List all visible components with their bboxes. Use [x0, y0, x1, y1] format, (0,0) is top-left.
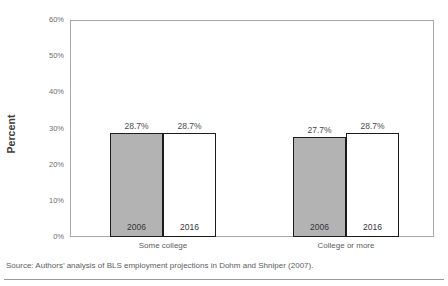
source-note: Source: Authors’ analysis of BLS employm… — [6, 261, 313, 270]
figure-container: Percent 0%10%20%30%40%50%60% 28.7%200628… — [0, 0, 448, 286]
bar-value-label: 28.7% — [124, 121, 148, 131]
bar-value-label: 28.7% — [360, 121, 384, 131]
bar-series-label: 2006 — [294, 222, 345, 232]
bar[interactable]: 28.7%2016 — [346, 133, 399, 237]
y-axis-tick-label: 60% — [24, 16, 64, 24]
bar[interactable]: 28.7%2006 — [110, 133, 163, 237]
bar-series-label: 2016 — [347, 222, 398, 232]
y-axis-tick-label: 0% — [24, 233, 64, 241]
bar[interactable]: 28.7%2016 — [163, 133, 216, 237]
bar-series-label: 2016 — [164, 222, 215, 232]
y-axis-tick-label: 10% — [24, 197, 64, 205]
bottom-divider — [4, 279, 444, 280]
bar-series-label: 2006 — [111, 222, 162, 232]
bar[interactable]: 27.7%2006 — [293, 137, 346, 237]
y-axis-tick-label: 30% — [24, 125, 64, 133]
bar-value-label: 27.7% — [307, 125, 331, 135]
x-axis-category-label: College or more — [293, 241, 399, 250]
bars-layer: 28.7%200628.7%201627.7%200628.7%2016 — [70, 20, 434, 237]
y-axis-tick-label: 50% — [24, 52, 64, 60]
y-axis-title: Percent — [0, 88, 22, 180]
y-axis-tick-label: 20% — [24, 161, 64, 169]
y-axis-title-text: Percent — [5, 114, 17, 153]
y-axis-tick-label: 40% — [24, 89, 64, 97]
bar-value-label: 28.7% — [177, 121, 201, 131]
x-axis-category-label: Some college — [110, 241, 216, 250]
